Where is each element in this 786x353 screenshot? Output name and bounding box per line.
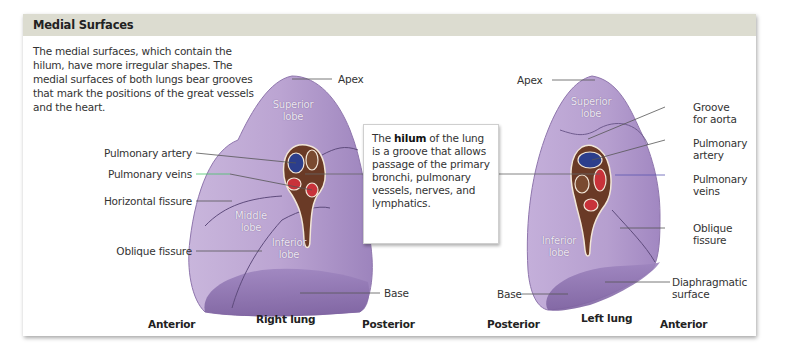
left-anterior-label: Anterior — [660, 318, 707, 330]
horizontal-fissure-label: Horizontal fissure — [90, 195, 192, 207]
left-pulmonary-veins-label: Pulmonary veins — [693, 173, 747, 197]
hilum-callout: The hilum of the lung is a groove that a… — [363, 124, 499, 244]
label-line: Oblique — [693, 222, 732, 234]
label-line: Pulmonary — [693, 137, 747, 149]
left-pulmonary-artery-label: Pulmonary artery — [693, 137, 747, 161]
left-posterior-label: Posterior — [487, 318, 540, 330]
right-pulmonary-veins-label: Pulmonary veins — [94, 168, 192, 180]
diaphragmatic-surface-label: Diaphragmatic surface — [672, 276, 747, 300]
right-inferior-lobe-label: Inferior lobe — [266, 237, 312, 261]
lobe-line: lobe — [566, 108, 616, 120]
left-lung-title: Left lung — [581, 312, 632, 324]
lobe-line: lobe — [266, 249, 312, 261]
left-superior-lobe-label: Superior lobe — [566, 96, 616, 120]
groove-for-aorta-label: Groove for aorta — [693, 101, 737, 125]
label-line: fissure — [693, 234, 732, 246]
lobe-line: Inferior — [536, 235, 582, 247]
right-lung-title: Right lung — [256, 313, 315, 325]
callout-pre: The — [372, 132, 394, 144]
right-middle-lobe-label: Middle lobe — [228, 210, 274, 234]
right-oblique-fissure-label: Oblique fissure — [90, 245, 192, 257]
lobe-line: Middle — [228, 210, 274, 222]
label-line: Diaphragmatic — [672, 276, 747, 288]
right-anterior-label: Anterior — [148, 318, 195, 330]
left-oblique-fissure-label: Oblique fissure — [693, 222, 732, 246]
right-pulmonary-artery-label: Pulmonary artery — [94, 147, 192, 159]
right-posterior-label: Posterior — [362, 318, 415, 330]
label-line: for aorta — [693, 113, 737, 125]
lobe-line: lobe — [228, 222, 274, 234]
label-line: veins — [693, 185, 747, 197]
label-line: Pulmonary — [693, 173, 747, 185]
lobe-line: Superior — [566, 96, 616, 108]
lobe-line: lobe — [536, 247, 582, 259]
lobe-line: Superior — [268, 99, 318, 111]
right-apex-label: Apex — [338, 73, 364, 85]
lobe-line: Inferior — [266, 237, 312, 249]
left-base-label: Base — [497, 288, 522, 300]
lobe-line: lobe — [268, 111, 318, 123]
label-line: Groove — [693, 101, 737, 113]
right-superior-lobe-label: Superior lobe — [268, 99, 318, 123]
label-line: artery — [693, 149, 747, 161]
left-apex-label: Apex — [517, 74, 543, 86]
label-line: surface — [672, 288, 747, 300]
callout-term: hilum — [394, 132, 426, 144]
right-base-label: Base — [384, 287, 409, 299]
left-inferior-lobe-label: Inferior lobe — [536, 235, 582, 259]
